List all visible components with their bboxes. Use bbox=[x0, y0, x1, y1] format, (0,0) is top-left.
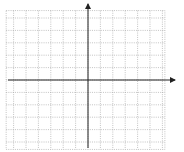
coordinate-plane bbox=[0, 0, 184, 152]
